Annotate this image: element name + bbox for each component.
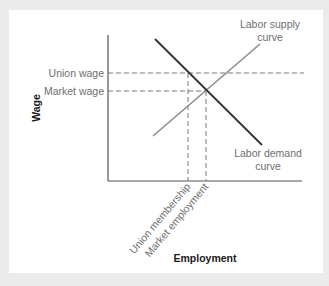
y-axis-title: Wage [30,94,42,122]
supply-curve-label-line1: Labor supply [240,18,301,30]
labor-demand-curve [155,39,262,145]
union-wage-label: Union wage [49,67,105,79]
labor-market-diagram: Union wage Market wage Wage Employment L… [0,0,329,286]
supply-curve-label-line2: curve [257,31,283,43]
demand-curve-label-line1: Labor demand [234,147,302,159]
market-wage-label: Market wage [44,85,104,97]
demand-curve-label-line2: curve [255,160,281,172]
x-axis-title: Employment [173,252,237,264]
